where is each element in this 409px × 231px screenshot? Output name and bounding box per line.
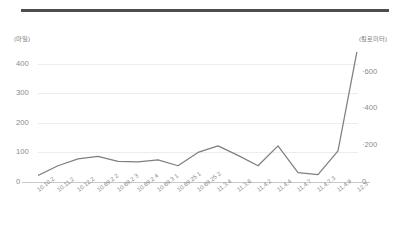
- x-axis-tick-label: 11.4.2: [256, 178, 272, 193]
- x-axis-tick-label: 11.3.4: [216, 178, 232, 193]
- x-axis-tick-label: 11.4.7.3: [316, 175, 336, 193]
- x-axis-tick-label: 11.4.4: [276, 178, 292, 193]
- x-axis-tick-label: 11.4.9: [336, 178, 352, 193]
- x-axis-tick-label: 10.12.2: [76, 176, 95, 193]
- x-axis-tick-label: 10.69.3 1: [156, 173, 179, 193]
- x-axis-tick-label: 12.3: [356, 181, 369, 193]
- x-axis-tick-label: 11.3.6: [236, 178, 252, 193]
- x-axis-tick-label: 10.10.2: [36, 176, 55, 193]
- x-axis-tick-label: 10.69.2 2: [96, 173, 119, 193]
- x-axis-tick-label: 10.11.2: [56, 176, 75, 193]
- x-axis-tick-group: 10.10.210.11.210.12.210.69.2 210.69.2 31…: [0, 0, 409, 231]
- x-axis-tick-label: 10.69.2 4: [136, 173, 159, 193]
- x-axis-tick-label: 10.69.2 3: [116, 173, 139, 193]
- chart-screenshot: (마일) (킬로미터) 0100200300400 0·200·400·600 …: [0, 0, 409, 231]
- x-axis-tick-label: 11.4.7: [296, 178, 312, 193]
